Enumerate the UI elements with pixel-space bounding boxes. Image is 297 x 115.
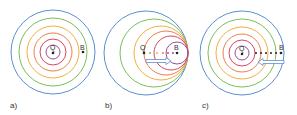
- observer-label: B: [279, 44, 284, 51]
- source-label: Q: [50, 44, 56, 52]
- observer-trace-dot: [275, 52, 277, 54]
- wavefront-red: [154, 36, 188, 70]
- observer-point: [280, 52, 283, 55]
- panel-label: a): [10, 101, 17, 110]
- source-trace-dot: [167, 52, 169, 54]
- source-label: Q: [140, 44, 146, 52]
- panel-label: b): [105, 101, 112, 110]
- wavefront-yellow: [134, 26, 188, 80]
- source-trace-dot: [172, 52, 174, 54]
- wavefront-blue: [104, 11, 188, 95]
- source-point: [241, 53, 244, 56]
- source-label: Q: [239, 45, 245, 53]
- observer-trace-dot: [265, 52, 267, 54]
- arrow-right-icon: [146, 58, 171, 65]
- source-point: [52, 52, 55, 55]
- observer-point: [82, 51, 85, 54]
- panel-b: Q B b): [104, 11, 188, 110]
- observer-trace-dot: [260, 52, 262, 54]
- panel-c: Q B c): [200, 11, 284, 110]
- observer-label: B: [80, 44, 85, 51]
- panel-label: c): [202, 101, 209, 110]
- observer-point: [176, 52, 179, 55]
- arrow-left-icon: [258, 59, 284, 66]
- observer-label: B: [174, 44, 179, 51]
- panel-a: Q B a): [10, 10, 95, 110]
- observer-trace-dot: [255, 52, 257, 54]
- source-trace-dot: [156, 52, 158, 54]
- observer-trace-dot: [270, 52, 272, 54]
- doppler-diagram: Q B a) Q B b) Q: [0, 0, 297, 115]
- source-trace-dot: [149, 52, 151, 54]
- source-trace-dot: [162, 52, 164, 54]
- source-start-point: [143, 52, 146, 55]
